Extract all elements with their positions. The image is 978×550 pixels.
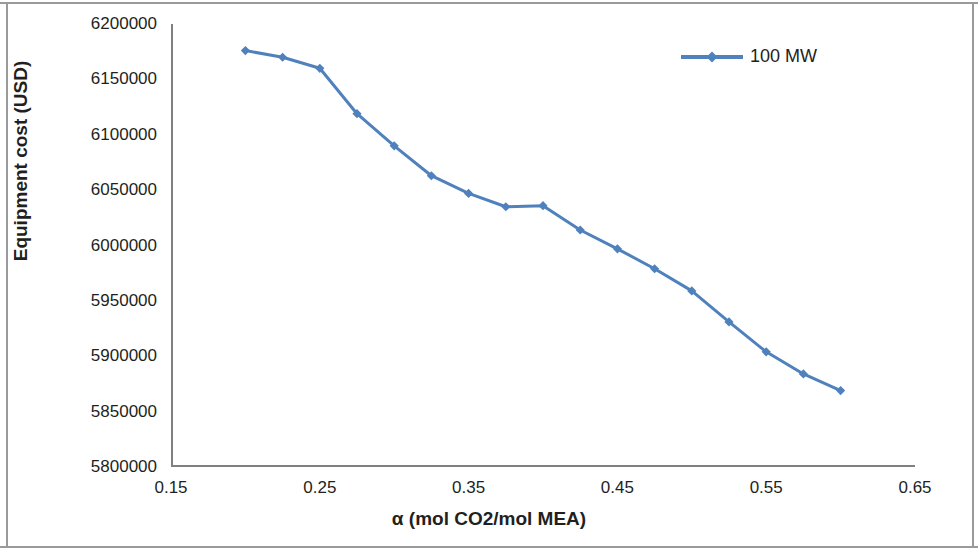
series-marker xyxy=(278,53,287,62)
x-tick-label: 0.45 xyxy=(601,478,634,498)
x-tick-label: 0.55 xyxy=(750,478,783,498)
x-tick-label: 0.65 xyxy=(898,478,931,498)
plot-area xyxy=(171,24,915,467)
legend: 100 MW xyxy=(681,46,817,67)
y-axis-title: Equipment cost (USD) xyxy=(10,11,32,311)
series-marker xyxy=(241,46,250,55)
x-tick-label: 0.15 xyxy=(154,478,187,498)
x-axis-title: α (mol CO2/mol MEA) xyxy=(0,508,978,530)
chart-figure: 5800000585000059000005950000600000060500… xyxy=(0,0,978,550)
series-marker xyxy=(501,202,510,211)
data-series-layer xyxy=(171,24,915,467)
series-line xyxy=(245,51,840,391)
x-tick-label: 0.35 xyxy=(452,478,485,498)
legend-label-100-mw: 100 MW xyxy=(750,46,817,67)
series-marker xyxy=(464,189,473,198)
legend-marker-icon xyxy=(681,49,743,65)
series-marker xyxy=(836,386,845,395)
x-tick-label: 0.25 xyxy=(303,478,336,498)
